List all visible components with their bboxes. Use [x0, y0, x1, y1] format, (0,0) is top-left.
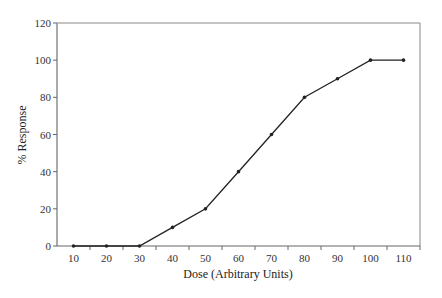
x-axis-title: Dose (Arbitrary Units) — [183, 267, 292, 281]
y-tick-label: 40 — [40, 166, 52, 178]
y-tick-label: 0 — [46, 240, 52, 252]
y-axis-ticks: 020406080100120 — [35, 17, 58, 252]
data-point-marker — [204, 207, 208, 211]
x-tick-label: 110 — [395, 252, 412, 264]
y-tick-label: 20 — [40, 203, 52, 215]
x-tick-label: 10 — [68, 252, 80, 264]
x-tick-label: 70 — [266, 252, 278, 264]
x-tick-label: 100 — [362, 252, 379, 264]
dose-response-chart: 020406080100120 102030405060708090100110… — [0, 0, 442, 298]
x-tick-label: 30 — [134, 252, 146, 264]
x-tick-label: 80 — [299, 252, 311, 264]
x-tick-label: 90 — [332, 252, 344, 264]
x-tick-label: 50 — [200, 252, 212, 264]
plot-frame — [57, 23, 420, 246]
data-point-marker — [138, 244, 142, 248]
x-tick-label: 60 — [233, 252, 245, 264]
data-series — [72, 58, 406, 247]
x-axis-ticks: 102030405060708090100110 — [68, 246, 420, 264]
x-tick-label: 40 — [167, 252, 179, 264]
y-tick-label: 80 — [40, 91, 52, 103]
data-point-marker — [369, 58, 373, 62]
y-axis-title: % Response — [15, 106, 29, 165]
series-line — [74, 60, 404, 246]
data-point-marker — [237, 170, 241, 174]
y-tick-label: 100 — [35, 54, 52, 66]
data-point-marker — [336, 77, 340, 81]
y-tick-label: 60 — [40, 129, 52, 141]
data-point-marker — [270, 133, 274, 137]
data-point-marker — [303, 96, 307, 100]
x-tick-label: 20 — [101, 252, 113, 264]
y-tick-label: 120 — [35, 17, 52, 29]
data-point-marker — [402, 58, 406, 62]
data-point-marker — [72, 244, 76, 248]
data-point-marker — [105, 244, 109, 248]
data-point-marker — [171, 226, 175, 230]
